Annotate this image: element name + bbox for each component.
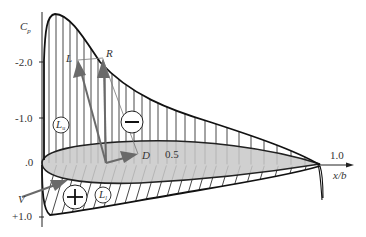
y-axis-label: Cp (20, 20, 31, 35)
y-tick-label: -2.0 (15, 56, 33, 68)
y-tick-label: -1.0 (15, 112, 33, 124)
velocity-label: V (18, 193, 26, 205)
x-tick-label: 0.5 (165, 148, 179, 160)
lift-label: L (65, 52, 72, 64)
resultant-label: R (105, 47, 113, 59)
y-tick-label: +1.0 (12, 210, 32, 222)
x-axis-label: x/b (332, 169, 347, 181)
y-tick-label: .0 (25, 156, 34, 168)
x-axis-arrowhead (346, 163, 354, 168)
drag-label: D (141, 149, 150, 161)
airfoil-shape (42, 141, 320, 184)
trailing-edge-spike (318, 165, 323, 200)
airfoil-cp-diagram: Cp -2.0 -1.0 .0 +1.0 0.5 1.0 x/b L R D V… (0, 0, 366, 237)
x-tick-label: 1.0 (330, 149, 344, 161)
